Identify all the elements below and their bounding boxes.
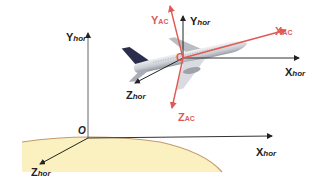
ground-x-axis-label: Xhor [256,143,276,159]
aircraft-z-hor-label: Zhor [126,86,146,102]
ground-y-axis-label: Yhor [66,28,86,44]
aircraft-y-hor-label: Yhor [190,12,210,28]
ground-x-axis [88,136,272,138]
aircraft-z-ac-label: ZAC [178,108,195,124]
aircraft-x-ac-label: XAC [275,22,292,38]
aircraft-x-ac-axis [183,30,286,58]
ground-origin-label: O [78,126,86,136]
earth-surface [22,137,222,172]
ground-z-axis-label: Zhor [31,163,51,179]
aircraft-y-ac-label: YAC [151,11,168,27]
aircraft-x-hor-label: Xhor [285,63,305,79]
aircraft-origin-label: O [176,52,185,63]
